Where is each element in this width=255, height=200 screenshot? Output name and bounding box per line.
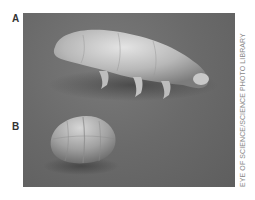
- panel-label-a: A: [12, 14, 19, 24]
- sem-photo: [23, 13, 235, 187]
- panel-label-b: B: [12, 122, 19, 132]
- tardigrade-b-tun: [51, 116, 116, 163]
- photo-credit: EYE OF SCIENCE/SCIENCE PHOTO LIBRARY: [239, 33, 246, 187]
- tardigrade-illustration: [23, 13, 235, 187]
